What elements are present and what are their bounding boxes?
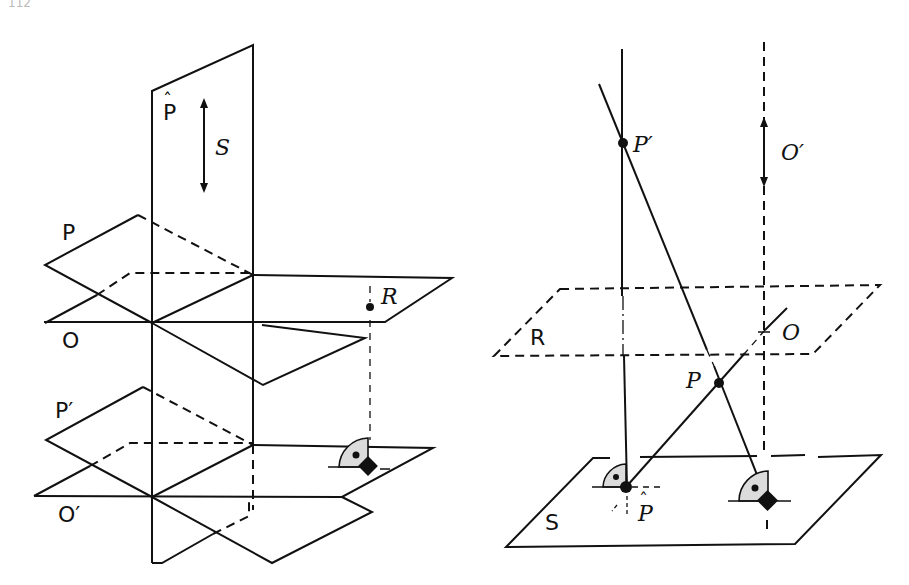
label-p: P [685, 368, 702, 393]
point-r [366, 303, 374, 311]
label-o-prime: O′ [58, 502, 80, 527]
page-number: 112 [8, 0, 31, 10]
label-r-plane: R [530, 325, 545, 350]
label-s-plane: S [545, 510, 559, 535]
label-o: O [782, 320, 800, 345]
label-p: P [62, 220, 75, 245]
plane-r [494, 285, 880, 356]
point-p [714, 378, 724, 388]
label-o-prime-right: O′ [781, 140, 804, 165]
point-p-prime [618, 138, 628, 148]
label-s-left: S [215, 135, 230, 160]
left-figure: P ˆ S P O R [34, 45, 452, 563]
right-angle-mark-p-hat [592, 464, 664, 515]
figure-canvas: 112 P ˆ S P O [0, 0, 909, 585]
label-p-prime: P′ [55, 398, 73, 423]
point-p-hat [620, 481, 632, 493]
right-angle-mark-o-foot [728, 471, 791, 511]
label-r-left: R [380, 284, 398, 309]
plane-p [45, 215, 365, 385]
plane-o-prime [34, 443, 433, 563]
label-p-hat-hat: ˆ [163, 89, 172, 110]
plane-s [506, 455, 881, 547]
label-o: O [62, 328, 79, 353]
label-p-prime-right: P′ [632, 132, 653, 157]
label-p-hat-hat-right: ˆ [639, 490, 648, 511]
right-angle-mark-left [328, 438, 390, 476]
right-figure: O′ P′ R O P S P ˆ [494, 42, 881, 547]
